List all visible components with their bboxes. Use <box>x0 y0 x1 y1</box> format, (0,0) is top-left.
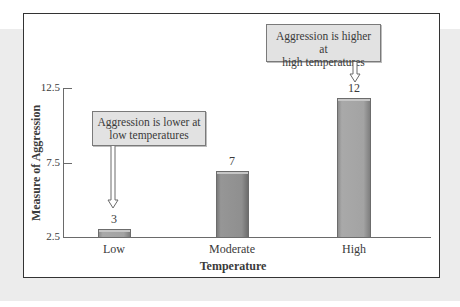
category-label-moderate: Moderate <box>209 242 255 257</box>
annotation-low: Aggression is lower at low temperatures <box>92 111 206 146</box>
plot-area: 12.5 7.5 2.5 Measure of Aggression 3 7 1… <box>0 0 460 307</box>
arrow-down-icon <box>349 62 361 83</box>
y-tick-12-5 <box>63 88 72 89</box>
annotation-high: Aggression is higher at high temperature… <box>266 24 381 62</box>
arrow-down-icon <box>107 146 119 209</box>
value-label-low: 3 <box>111 212 117 227</box>
annotation-high-line1: Aggression is higher at <box>271 29 376 56</box>
y-tick-7-5 <box>63 163 72 164</box>
category-label-high: High <box>342 242 366 257</box>
annotation-low-line1: Aggression is lower at <box>97 116 201 129</box>
bar-moderate <box>216 171 249 238</box>
category-label-low: Low <box>103 242 125 257</box>
bar-low <box>98 229 131 238</box>
value-label-high: 12 <box>348 81 360 96</box>
y-tick-label-2-5: 2.5 <box>30 230 60 242</box>
x-axis-title: Temperature <box>200 259 267 274</box>
bar-high <box>337 98 371 238</box>
annotation-low-line2: low temperatures <box>97 129 201 142</box>
value-label-moderate: 7 <box>229 154 235 169</box>
y-tick-label-12-5: 12.5 <box>30 81 60 93</box>
y-axis-title: Measure of Aggression <box>29 105 44 221</box>
